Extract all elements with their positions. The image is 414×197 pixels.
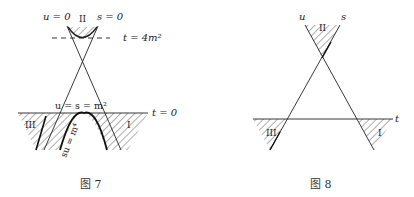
label-region-iii: III (25, 120, 36, 130)
label-t-zero: t = 0 (152, 107, 178, 118)
label-region-i-f8: I (378, 128, 382, 138)
label-t-f8: t (395, 113, 400, 124)
caption-figure-7: 图 7 (80, 175, 102, 191)
label-threshold: t = 4m² (123, 32, 162, 43)
label-region-i: I (127, 120, 131, 130)
label-region-ii-f8: II (319, 23, 327, 33)
label-u-f8: u (299, 11, 305, 22)
label-s-f8: s (341, 11, 346, 22)
label-region-iii-f8: III (266, 128, 277, 138)
line-u-f8 (305, 25, 374, 150)
figure-8: u s II t III I (253, 11, 400, 150)
caption-figure-8: 图 8 (310, 175, 332, 191)
figure-7: u = 0 II s = 0 t = 4m² u = s = m² t = 0 … (18, 11, 178, 159)
diagram-container: u = 0 II s = 0 t = 4m² u = s = m² t = 0 … (0, 0, 414, 197)
label-s-zero: s = 0 (97, 11, 124, 22)
label-u-eq-s: u = s = m² (55, 100, 107, 111)
mandelstam-diagrams: u = 0 II s = 0 t = 4m² u = s = m² t = 0 … (0, 0, 414, 197)
label-region-ii: II (79, 14, 87, 24)
region-i-hatch-f8 (357, 119, 393, 150)
label-u-zero: u = 0 (43, 11, 71, 22)
